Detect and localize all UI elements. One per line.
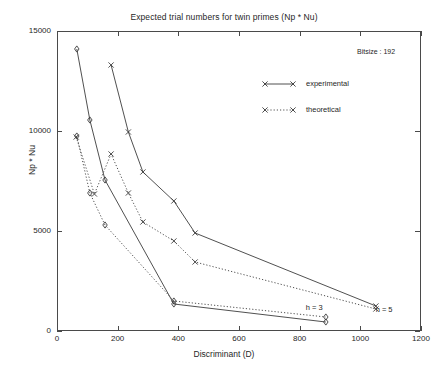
x-tick-label: 1200 — [401, 334, 441, 343]
y-tick-label: 15000 — [5, 26, 51, 35]
x-axis-label: Discriminant (D) — [0, 349, 448, 359]
series-line — [77, 136, 326, 317]
series-3 — [75, 133, 329, 320]
series-1 — [74, 134, 379, 311]
y-tick-label: 5000 — [5, 226, 51, 235]
figure: Expected trial numbers for twin primes (… — [0, 0, 448, 371]
series-line — [77, 49, 326, 322]
series-line — [111, 65, 376, 306]
x-tick-label: 200 — [98, 334, 138, 343]
series-line — [76, 137, 376, 309]
x-tick-label: 800 — [280, 334, 320, 343]
x-tick-label: 1000 — [340, 334, 380, 343]
plot-area — [57, 31, 421, 331]
data-canvas — [58, 32, 422, 332]
x-tick-label: 400 — [158, 334, 198, 343]
chart-title: Expected trial numbers for twin primes (… — [0, 12, 448, 22]
y-tick-label: 10000 — [5, 126, 51, 135]
x-tick-label: 0 — [37, 334, 77, 343]
series-2 — [75, 46, 329, 325]
series-0 — [108, 62, 378, 308]
x-tick-label: 600 — [219, 334, 259, 343]
